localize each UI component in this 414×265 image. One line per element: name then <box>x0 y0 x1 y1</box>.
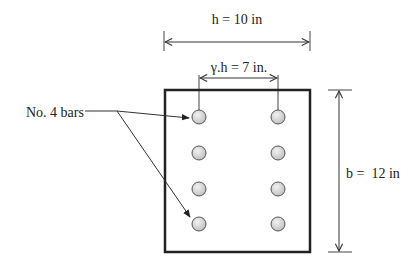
bar-spacing-label: γ.h = 7 in. <box>210 60 267 75</box>
height-label: b = 12 in <box>346 166 400 181</box>
width-dimension: h = 10 in <box>164 12 310 51</box>
bar <box>271 182 285 196</box>
bar <box>271 146 285 160</box>
bar <box>192 146 206 160</box>
bar <box>192 110 206 124</box>
bar <box>271 110 285 124</box>
section-outline <box>165 90 310 252</box>
beam-section-diagram: h = 10 in γ.h = 7 in. b = 12 in No. 4 ba… <box>0 0 414 265</box>
bar-spacing-dimension: γ.h = 7 in. <box>199 60 278 117</box>
width-label: h = 10 in <box>212 12 262 27</box>
bar-callout-label: No. 4 bars <box>26 105 84 120</box>
bar <box>271 217 285 231</box>
bar <box>192 217 206 231</box>
reinforcing-bars <box>192 110 285 231</box>
bar <box>192 182 206 196</box>
height-dimension: b = 12 in <box>328 90 400 252</box>
